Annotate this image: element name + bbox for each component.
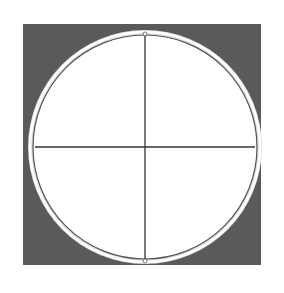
top-endpoint-marker [143,32,147,36]
circle-crosshair-diagram [0,0,284,293]
bottom-endpoint-marker [143,259,147,263]
